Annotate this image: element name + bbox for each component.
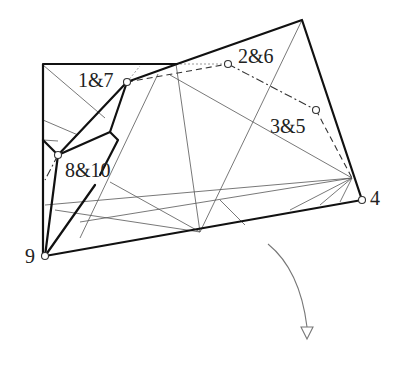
node-4 [359, 197, 366, 204]
fold-arrow-icon [268, 244, 313, 339]
label-3-5: 3&5 [270, 115, 306, 137]
node-8-10 [55, 152, 62, 159]
crease-diagram: 1&7 2&6 3&5 8&10 4 9 [0, 0, 400, 373]
node-9 [42, 253, 49, 260]
label-1-7: 1&7 [78, 69, 114, 91]
node-2-6 [225, 61, 232, 68]
node-1-7 [124, 79, 131, 86]
thin-crease-lines [43, 20, 352, 238]
label-8-10: 8&10 [65, 159, 111, 181]
node-3-5 [313, 107, 320, 114]
label-2-6: 2&6 [238, 45, 274, 67]
label-4: 4 [370, 187, 380, 209]
label-9: 9 [25, 245, 35, 267]
